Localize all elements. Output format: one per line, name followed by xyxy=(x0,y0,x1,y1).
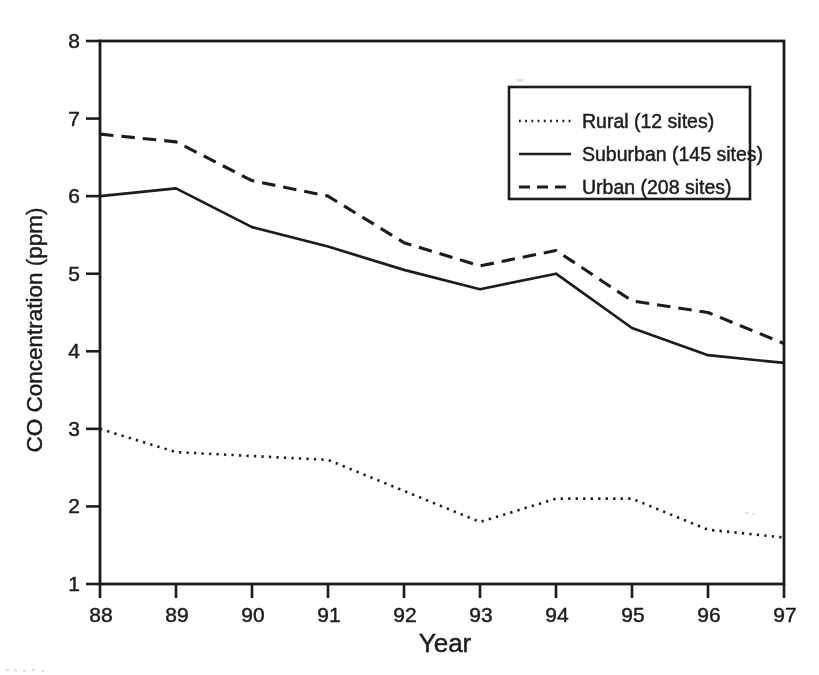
x-axis-ticks: 88899091929394959697 xyxy=(89,584,796,626)
y-tick-label: 2 xyxy=(68,494,80,517)
y-tick-label: 8 xyxy=(68,29,80,52)
y-tick-label: 5 xyxy=(68,262,80,285)
x-tick-label: 89 xyxy=(165,603,188,626)
x-tick-label: 97 xyxy=(773,603,796,626)
x-tick-label: 90 xyxy=(241,603,264,626)
y-tick-label: 3 xyxy=(68,417,80,440)
legend-label-rural: Rural (12 sites) xyxy=(582,110,714,132)
y-axis-ticks: 12345678 xyxy=(68,29,101,595)
x-tick-label: 88 xyxy=(89,603,112,626)
legend-label-urban: Urban (208 sites) xyxy=(582,176,732,198)
series-line-rural xyxy=(100,429,784,538)
y-tick-label: 6 xyxy=(68,184,80,207)
legend-label-suburban: Suburban (145 sites) xyxy=(582,143,763,165)
y-tick-label: 1 xyxy=(68,572,80,595)
x-tick-label: 92 xyxy=(393,603,416,626)
co-trend-line-chart: 12345678 88899091929394959697 Rural (12 … xyxy=(0,0,819,675)
x-tick-label: 94 xyxy=(545,603,569,626)
series-line-suburban xyxy=(100,188,784,363)
x-tick-label: 95 xyxy=(621,603,644,626)
x-tick-label: 91 xyxy=(317,603,340,626)
x-tick-label: 96 xyxy=(697,603,720,626)
x-axis-label: Year xyxy=(419,628,472,658)
y-tick-label: 4 xyxy=(68,339,80,362)
y-axis-label: CO Concentration (ppm) xyxy=(22,207,47,452)
x-tick-label: 93 xyxy=(469,603,492,626)
legend: Rural (12 sites)Suburban (145 sites)Urba… xyxy=(509,87,763,199)
co-concentration-figure: 12345678 88899091929394959697 Rural (12 … xyxy=(0,0,819,675)
y-tick-label: 7 xyxy=(68,107,80,130)
